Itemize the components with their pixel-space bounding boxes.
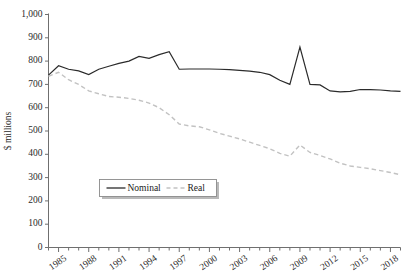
y-tick-label: 900	[28, 32, 43, 42]
series-line-nominal	[49, 47, 401, 92]
y-tick-label: 100	[28, 218, 43, 228]
x-tick-label: 2003	[228, 253, 250, 272]
data-series-group	[49, 47, 401, 175]
y-tick-label: 1,000	[21, 9, 43, 19]
y-tick-label: 700	[28, 79, 43, 89]
legend-label-real[interactable]: Real	[188, 183, 206, 193]
x-tick-label: 2000	[198, 253, 220, 272]
x-tick-label: 1988	[77, 253, 99, 272]
x-tick-label: 2006	[258, 253, 280, 272]
y-axis-title-label: $ millions	[3, 112, 13, 151]
y-tick-label: 300	[28, 172, 43, 182]
y-tick-label: 800	[28, 55, 43, 65]
y-tick-label: 400	[28, 148, 43, 158]
y-axis-title: $ millions	[3, 112, 13, 151]
series-line-real	[49, 72, 401, 175]
x-axis: 1985198819911994199720002003200620092012…	[47, 248, 401, 273]
x-tick-label: 2015	[349, 253, 371, 272]
chart-legend[interactable]: NominalReal	[100, 180, 220, 200]
x-tick-label: 1985	[47, 253, 69, 272]
x-tick-label: 1994	[137, 253, 159, 272]
y-tick-label: 200	[28, 195, 43, 205]
y-axis: 01002003004005006007008009001,000	[21, 9, 48, 252]
x-tick-label: 2009	[288, 253, 310, 272]
x-tick-label: 2018	[379, 253, 401, 272]
y-tick-label: 500	[28, 125, 43, 135]
line-chart: 01002003004005006007008009001,000 198519…	[0, 0, 407, 278]
legend-label-nominal[interactable]: Nominal	[128, 183, 162, 193]
x-tick-label: 1997	[168, 253, 190, 272]
chart-container: 01002003004005006007008009001,000 198519…	[0, 0, 407, 278]
y-tick-label: 0	[38, 242, 43, 252]
y-tick-label: 600	[28, 102, 43, 112]
x-tick-label: 2012	[318, 253, 340, 272]
x-tick-label: 1991	[107, 253, 129, 272]
